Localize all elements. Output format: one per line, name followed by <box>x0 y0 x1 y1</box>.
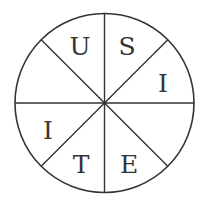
segment-letter-e: E <box>120 150 138 179</box>
segment-letter-i-left: I <box>43 116 53 145</box>
segment-letter-t: T <box>73 150 90 179</box>
segmented-circle-diagram: U S I I T E <box>0 0 205 202</box>
segment-letter-i-right: I <box>158 69 168 98</box>
segment-letter-u: U <box>69 32 90 61</box>
segment-letter-s: S <box>118 32 135 61</box>
